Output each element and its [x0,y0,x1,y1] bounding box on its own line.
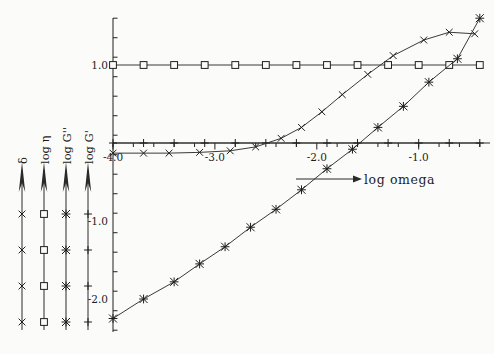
legend-axis-label: log η [38,135,52,164]
data-point [354,62,361,69]
legend-axis-label: δ [16,157,30,164]
legend-axis-log-eta: log η [38,135,52,330]
data-point [262,62,269,69]
data-point [201,62,208,69]
series-log-g-prime [109,139,484,147]
data-point [390,52,397,59]
data-point [195,260,204,269]
data-point [140,62,147,69]
data-point [339,91,346,98]
legend-marker [62,282,71,291]
series-log-eta [110,62,484,69]
y-tick-label: -2.0 [88,293,108,305]
data-point [170,277,179,286]
data-point [231,139,239,147]
legend-marker [84,318,92,326]
legend-marker [41,319,48,326]
legend-marker [41,247,48,254]
legend-marker [84,282,92,290]
legend-marker [62,210,71,219]
legend-marker [62,246,71,255]
x-axis-arrow-head [353,175,362,182]
data-point [385,62,392,69]
legend-marker [41,283,48,290]
data-point [318,108,325,115]
data-point [476,62,483,69]
data-point [292,139,300,147]
y-tick-label: -1.0 [88,215,108,227]
plot-labels-group: 1.0-1.0-2.0-4.0-3.0-2.0-1.0log omega [88,59,435,305]
x-tick-label: -2.0 [307,151,327,163]
data-point [110,62,117,69]
data-point [278,135,285,142]
x-tick-label: -1.0 [409,151,429,163]
data-point [323,139,331,147]
data-point [384,139,392,147]
data-point [272,205,281,214]
figure-canvas: δlog ηlog G''log G' 1.0-1.0-2.0-4.0-3.0-… [0,0,494,354]
data-point [298,124,305,131]
data-point [415,62,422,69]
data-point [399,102,408,111]
legend-marker [41,211,48,218]
x-axis-label: log omega [364,172,435,187]
legend-marker [84,246,92,254]
data-point [140,139,148,147]
data-point [420,37,427,44]
data-point [246,223,255,232]
data-point [170,139,178,147]
data-point [424,78,433,87]
legend-axis-label: log G' [82,130,96,164]
data-point [201,139,209,147]
data-point [453,54,462,63]
data-point [475,14,484,23]
data-point [374,123,383,132]
data-point [348,145,357,154]
legend-axis-label: log G'' [60,127,74,164]
data-point [445,139,453,147]
legend-axis-delta: δ [16,157,30,330]
legend-axis-log-g-double-prime: log G'' [60,127,74,330]
data-point [109,139,117,147]
data-point [139,295,148,304]
data-point [364,71,371,78]
data-point [476,139,484,147]
series-line [113,32,475,153]
data-point [293,62,300,69]
rheology-plot: δlog ηlog G''log G' 1.0-1.0-2.0-4.0-3.0-… [0,0,494,354]
data-point [109,314,118,323]
x-tick-label: -3.0 [205,151,225,163]
data-point [415,139,423,147]
data-point [323,164,332,173]
data-point [232,62,239,69]
data-point [324,62,331,69]
x-tick-label: -4.0 [103,151,123,163]
data-point [221,242,230,251]
plot-series-group [109,14,485,323]
y-tick-label: 1.0 [91,59,108,71]
legend-axes-group: δlog ηlog G''log G' [16,127,96,330]
legend-marker [62,318,71,327]
series-delta [110,29,479,157]
data-point [171,62,178,69]
series-log-g-double-prime [109,14,485,323]
data-point [297,185,306,194]
